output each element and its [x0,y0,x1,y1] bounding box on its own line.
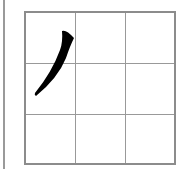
pie-stroke-icon [0,0,177,169]
